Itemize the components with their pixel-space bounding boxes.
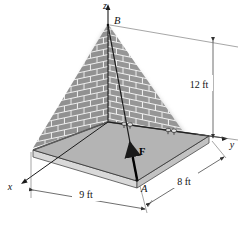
dimension-label-9ft: 9 ft — [79, 189, 93, 200]
point-A-label: A — [140, 183, 148, 194]
dimension-label-12ft: 12 ft — [190, 79, 209, 90]
point-A-marker — [135, 178, 138, 181]
statics-diagram-svg: z y x B A F 12 ft 9 ft 8 ft — [0, 0, 243, 229]
dimension-label-8ft: 8 ft — [177, 176, 191, 187]
x-axis-label: x — [7, 181, 13, 192]
point-B-label: B — [114, 15, 121, 26]
point-B-marker — [107, 24, 110, 27]
z-axis-label: z — [102, 0, 107, 11]
figure-container: z y x B A F 12 ft 9 ft 8 ft — [0, 0, 243, 229]
force-label-F: F — [139, 146, 145, 157]
y-axis-label: y — [229, 139, 235, 150]
